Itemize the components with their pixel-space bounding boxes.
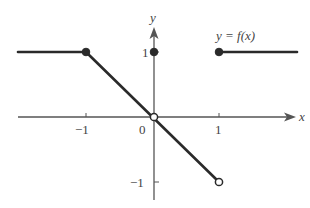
y-axis-label: y: [148, 10, 156, 25]
function-label: y = f(x): [214, 28, 255, 43]
x-axis: x: [18, 109, 305, 124]
filled-point-0-1: [150, 48, 158, 56]
tick-label-x-0: 0: [139, 122, 146, 137]
filled-point-1-1: [215, 48, 223, 56]
open-point-0-0: [150, 113, 157, 120]
open-point-1-neg1: [215, 178, 222, 185]
function-graph: x y −1 0 1 1 −1 y = f(x): [0, 0, 310, 208]
tick-label-x-neg1: −1: [75, 122, 89, 137]
graph-canvas: x y −1 0 1 1 −1 y = f(x): [0, 0, 310, 208]
tick-label-y-1: 1: [142, 45, 149, 60]
tick-label-x-1: 1: [215, 122, 222, 137]
filled-point-neg1-1: [82, 48, 90, 56]
tick-label-y-neg1: −1: [130, 175, 144, 190]
y-axis: y: [148, 10, 159, 200]
x-axis-label: x: [298, 109, 305, 124]
